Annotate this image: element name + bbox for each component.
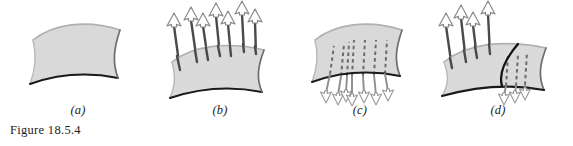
- figure-container: (a): [0, 0, 573, 146]
- figure-panels: (a): [0, 0, 573, 146]
- normal-vector: [383, 74, 394, 101]
- surface-diagram-d: [428, 0, 568, 106]
- figure-panel-a: (a): [8, 0, 148, 132]
- figure-panel-b: (b): [150, 0, 290, 132]
- panel-label-d: (d): [428, 103, 568, 117]
- panel-label-a: (a): [8, 103, 148, 117]
- surface-diagram-c: [290, 0, 430, 106]
- figure-panel-d: (d): [428, 0, 568, 132]
- normal-vector: [347, 76, 358, 106]
- normal-vector: [359, 76, 370, 103]
- figure-caption: Figure 18.5.4: [10, 122, 81, 138]
- figure-panel-c: (c): [290, 0, 430, 132]
- panel-label-b: (b): [150, 103, 290, 117]
- normal-vectors-down: [321, 74, 394, 106]
- normal-vector: [333, 76, 344, 105]
- normal-vector: [510, 86, 521, 103]
- surface-diagram-a: [8, 0, 148, 106]
- normal-vector: [371, 75, 382, 105]
- panel-label-c: (c): [290, 103, 430, 117]
- surface-diagram-b: [150, 0, 290, 106]
- normal-vectors-down: [499, 85, 531, 105]
